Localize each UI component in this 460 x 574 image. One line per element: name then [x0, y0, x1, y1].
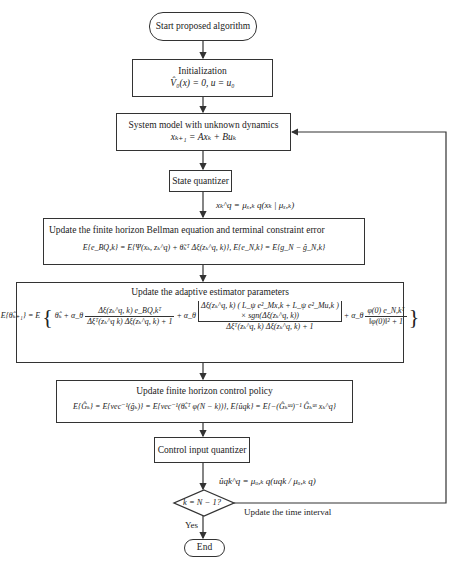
control-quantizer-output: ûqk^q = μᵤ,ₖ q(uqk / μᵤ,ₖ q): [219, 476, 316, 486]
fraction-3-denominator: ‖φ(0)‖² + 1: [365, 317, 406, 327]
adaptive-term0: θ̂ₖ + α_θ: [55, 311, 83, 321]
right-brace: }: [409, 303, 420, 331]
bellman-update-box: Update the finite horizon Bellman equati…: [43, 218, 365, 265]
state-quantizer-title: State quantizer: [172, 176, 229, 186]
bellman-title: Update the finite horizon Bellman equati…: [49, 225, 359, 237]
initialization-box: Initialization V̂₀(x) = 0, u = u₀: [132, 59, 273, 97]
control-input-quantizer-title: Control input quantizer: [158, 445, 247, 455]
adaptive-title: Update the adaptive estimator parameters: [17, 287, 403, 299]
fraction-3-numerator: φ(0) e_N,kᵀ: [365, 306, 406, 317]
bellman-equation: E{e_BQ,k} = E{Ψ(xₖ, zₖ^q) + θ̃ₖᵀ Δξ(zₖ^q…: [49, 243, 359, 253]
yes-label: Yes: [185, 520, 198, 530]
left-brace: {: [42, 303, 53, 331]
fraction-2-denominator: Δξᵀ(zₖ^q, k) Δξ(zₖ^q, k) + 1: [198, 322, 342, 332]
fraction-2-numerator-line-2: × sgn(Δξ(zₖ^q, k)): [201, 311, 339, 321]
control-policy-equation: E{Ĝₖ} = E{vec⁻¹(ĝₖ)} = E{vec⁻¹(θ̂ₖᵀ φ(N …: [57, 402, 352, 412]
system-model-title: System model with unknown dynamics: [117, 120, 290, 132]
initialization-title: Initialization: [133, 66, 272, 78]
start-label: Start proposed algorithm: [156, 21, 250, 33]
adaptive-estimator-box: Update the adaptive estimator parameters…: [16, 282, 404, 363]
adaptive-fraction-2: Δξ(zₖ^q, k) ( L_ψ e²_Mx,k + L_ψ e²_Mu,k …: [198, 301, 342, 332]
adaptive-fraction-3: φ(0) e_N,kᵀ ‖φ(0)‖² + 1: [365, 306, 406, 327]
system-model-equation: xₖ₊₁ = Axₖ + Buₖ: [117, 132, 290, 144]
adaptive-plus-alpha-1: + α_θ: [176, 311, 196, 321]
end-label: End: [197, 542, 212, 554]
decision-label: k = N − 1?: [183, 497, 221, 507]
control-policy-box: Update finite horizon control policy E{Ĝ…: [56, 380, 353, 423]
initialization-equation: V̂₀(x) = 0, u = u₀: [133, 78, 272, 90]
state-quantizer-box: State quantizer: [169, 170, 232, 192]
control-policy-title: Update finite horizon control policy: [57, 386, 352, 398]
start-node: Start proposed algorithm: [149, 12, 257, 41]
end-node: End: [184, 539, 225, 557]
fraction-2-numerator-line-1: Δξ(zₖ^q, k) ( L_ψ e²_Mx,k + L_ψ e²_Mu,k …: [201, 301, 339, 311]
state-quantizer-output: xₖ^q = μₓ,ₖ q(xₖ | μₓ,ₖ): [216, 200, 294, 210]
fraction-1-denominator: Δξᵀ(zₖ^q k) Δξ(zₖ^q, k) + 1: [85, 317, 174, 327]
adaptive-plus-alpha-2: + α_θ: [344, 311, 364, 321]
loop-label: Update the time interval: [244, 507, 331, 517]
adaptive-equation: E{θ̂ₖ₊₁} = E { θ̂ₖ + α_θ Δξ(zₖ^q, k) e_B…: [17, 301, 403, 332]
fraction-2-numerator: Δξ(zₖ^q, k) ( L_ψ e²_Mx,k + L_ψ e²_Mu,k …: [198, 301, 342, 322]
adaptive-fraction-1: Δξ(zₖ^q, k) e_BQ,kᵀ Δξᵀ(zₖ^q k) Δξ(zₖ^q,…: [85, 306, 174, 327]
fraction-1-numerator: Δξ(zₖ^q, k) e_BQ,kᵀ: [85, 306, 174, 317]
control-input-quantizer-box: Control input quantizer: [154, 437, 250, 463]
system-model-box: System model with unknown dynamics xₖ₊₁ …: [116, 113, 291, 151]
adaptive-lhs: E{θ̂ₖ₊₁} = E: [1, 311, 40, 321]
